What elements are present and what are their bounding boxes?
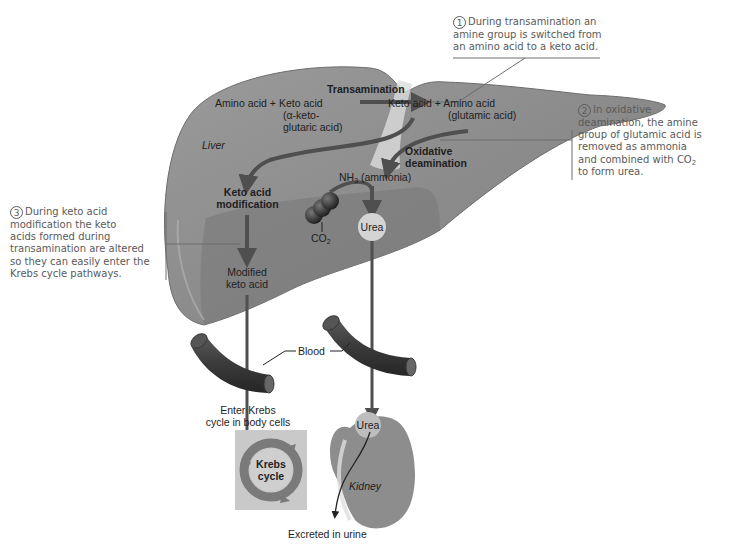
modified-keto-acid-label: Modified keto acid: [217, 266, 277, 290]
alpha-ketoglutaric-label-2: glutaric acid): [283, 121, 343, 133]
alpha-ketoglutaric-label-1: (α-keto-: [283, 109, 319, 121]
blood-label: Blood: [298, 345, 325, 357]
callout-oxidative-deamination: 2In oxidative deamination, the amine gro…: [578, 104, 702, 178]
callout-keto-acid-modification: 3During keto acid modification the keto …: [10, 206, 150, 280]
enter-krebs-label: Enter Krebs cycle in body cells: [198, 404, 298, 428]
keto-acid-modification-label: Keto acid modification: [205, 186, 290, 210]
urea-cycle-diagram: 1During transamination an amine group is…: [0, 0, 735, 560]
oxidative-label-1: Oxidative: [405, 145, 452, 157]
excreted-label: Excreted in urine: [288, 528, 367, 540]
blood-vessel-left-icon: [188, 331, 274, 393]
step-number-3: 3: [10, 206, 23, 219]
step-number-2: 2: [578, 104, 591, 117]
callout-transamination: 1During transamination an amine group is…: [453, 16, 602, 53]
step-number-1: 1: [453, 16, 466, 29]
urea-kidney-label: Urea: [348, 419, 388, 431]
reactants-label: Amino acid + Keto acid: [215, 97, 323, 109]
oxidative-label-2: deamination: [405, 157, 467, 169]
liver-label: Liver: [202, 139, 225, 151]
krebs-cycle-label: Krebs cycle: [246, 458, 296, 482]
transamination-label: Transamination: [327, 83, 405, 95]
glutamic-acid-label: (glutamic acid): [448, 109, 516, 121]
kidney-label: Kidney: [349, 480, 381, 492]
co2-label: CO2: [311, 232, 331, 244]
blood-vessel-right-icon: [320, 313, 416, 376]
urea-liver-label: Urea: [352, 221, 392, 233]
products-label: Keto acid + Amino acid: [388, 97, 495, 109]
ammonia-label: NH3 (ammonia): [339, 171, 411, 183]
